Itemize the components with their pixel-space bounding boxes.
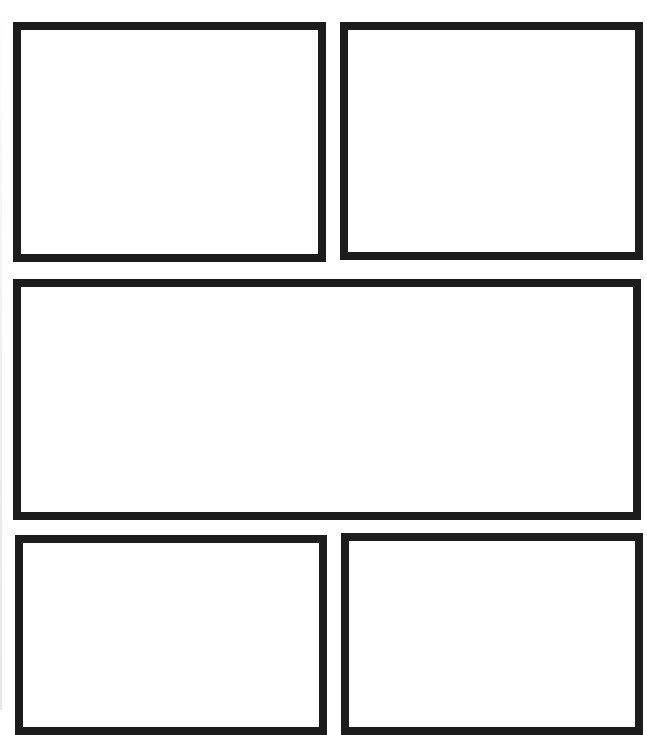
page-edge-line	[0, 0, 2, 710]
panel-top-right	[340, 22, 643, 260]
panel-middle-wide	[13, 279, 641, 520]
panel-bottom-right	[341, 533, 643, 735]
panel-top-left	[13, 22, 326, 262]
panel-bottom-left	[15, 535, 327, 735]
